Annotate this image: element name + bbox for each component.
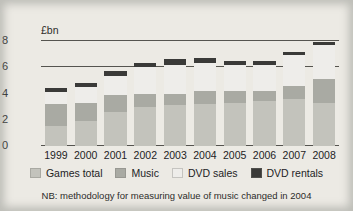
x-tick-2002: 2002 xyxy=(130,149,160,161)
bar-2004[interactable] xyxy=(194,58,216,146)
bar-segment-dvd-sales-2002 xyxy=(134,67,156,93)
bar-segment-games-total-2000 xyxy=(75,121,97,146)
bar-segment-games-total-1999 xyxy=(45,126,67,146)
legend-swatch-games-total xyxy=(30,168,41,178)
bar-segment-games-total-2002 xyxy=(134,107,156,146)
legend-swatch-dvd-sales xyxy=(172,168,183,178)
bar-segment-dvd-sales-2006 xyxy=(253,65,275,91)
y-tick-4: 4 xyxy=(0,87,8,99)
legend-swatch-dvd-rentals xyxy=(251,168,262,178)
bar-segment-dvd-sales-2004 xyxy=(194,63,216,91)
x-tick-2005: 2005 xyxy=(220,149,250,161)
chart-legend: Games totalMusicDVD salesDVD rentals xyxy=(0,167,353,179)
y-tick-8: 8 xyxy=(0,34,8,46)
x-tick-2001: 2001 xyxy=(101,149,131,161)
bar-segment-music-2002 xyxy=(134,94,156,107)
bar-1999[interactable] xyxy=(45,88,67,146)
bar-segment-music-2001 xyxy=(104,95,126,112)
x-tick-2006: 2006 xyxy=(250,149,280,161)
bar-segment-dvd-sales-2001 xyxy=(104,76,126,94)
bar-2007[interactable] xyxy=(283,52,305,147)
bar-segment-dvd-sales-2007 xyxy=(283,55,305,85)
legend-label-dvd-sales: DVD sales xyxy=(188,167,238,179)
gridline-8 xyxy=(41,40,339,41)
legend-swatch-music xyxy=(115,168,126,178)
y-tick-6: 6 xyxy=(0,60,8,72)
bar-segment-dvd-sales-2000 xyxy=(75,87,97,103)
legend-item-games-total[interactable]: Games total xyxy=(30,167,103,179)
bar-segment-music-2003 xyxy=(164,94,186,106)
bar-2008[interactable] xyxy=(313,42,335,146)
bar-2002[interactable] xyxy=(134,63,156,146)
y-tick-2: 2 xyxy=(0,113,8,125)
bar-segment-music-2008 xyxy=(313,79,335,103)
bar-segment-games-total-2008 xyxy=(313,103,335,146)
legend-label-games-total: Games total xyxy=(46,167,103,179)
bar-segment-music-2007 xyxy=(283,86,305,99)
chart-card: £bn 02468 199920002001200220032004200520… xyxy=(0,0,353,211)
bar-segment-music-1999 xyxy=(45,104,67,126)
bar-segment-games-total-2003 xyxy=(164,105,186,146)
y-tick-0: 0 xyxy=(0,139,8,151)
bar-segment-dvd-sales-2005 xyxy=(224,65,246,91)
bar-segment-music-2004 xyxy=(194,91,216,104)
bar-segment-games-total-2006 xyxy=(253,101,275,146)
bar-segment-games-total-2001 xyxy=(104,112,126,146)
bar-2005[interactable] xyxy=(224,61,246,146)
legend-item-dvd-sales[interactable]: DVD sales xyxy=(172,167,238,179)
x-tick-2008: 2008 xyxy=(309,149,339,161)
bar-segment-dvd-sales-1999 xyxy=(45,92,67,104)
plot-area xyxy=(41,41,339,146)
x-tick-2003: 2003 xyxy=(160,149,190,161)
legend-label-music: Music xyxy=(131,167,158,179)
bar-segment-games-total-2004 xyxy=(194,104,216,146)
bar-2001[interactable] xyxy=(104,71,126,146)
bar-segment-dvd-sales-2008 xyxy=(313,45,335,79)
bar-segment-music-2005 xyxy=(224,91,246,103)
legend-label-dvd-rentals: DVD rentals xyxy=(267,167,324,179)
legend-item-dvd-rentals[interactable]: DVD rentals xyxy=(251,167,324,179)
bar-segment-dvd-sales-2003 xyxy=(164,65,186,94)
x-tick-2000: 2000 xyxy=(71,149,101,161)
bar-2000[interactable] xyxy=(75,83,97,146)
x-tick-1999: 1999 xyxy=(41,149,71,161)
bar-2003[interactable] xyxy=(164,59,186,146)
bar-segment-music-2000 xyxy=(75,103,97,121)
bar-segment-music-2006 xyxy=(253,91,275,102)
bar-segment-games-total-2005 xyxy=(224,103,246,146)
chart-footnote: NB: methodology for measuring value of m… xyxy=(0,190,353,201)
legend-item-music[interactable]: Music xyxy=(115,167,158,179)
y-axis-unit-label: £bn xyxy=(41,24,59,36)
bar-segment-games-total-2007 xyxy=(283,99,305,146)
bar-2006[interactable] xyxy=(253,61,275,146)
x-tick-2004: 2004 xyxy=(190,149,220,161)
x-tick-2007: 2007 xyxy=(279,149,309,161)
